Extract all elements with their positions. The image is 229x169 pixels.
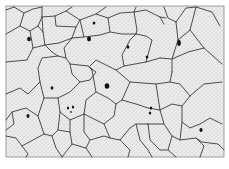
nucleus (87, 37, 91, 42)
nucleus (150, 107, 152, 110)
nucleus (149, 111, 151, 114)
nucleus (27, 37, 31, 42)
nucleus (127, 45, 130, 49)
nucleus (67, 107, 69, 110)
nucleus (146, 55, 149, 58)
nucleus (72, 106, 74, 109)
cell-tissue-illustration (0, 0, 229, 169)
nucleus (199, 128, 202, 132)
nucleus (177, 40, 181, 46)
nucleus (27, 114, 30, 118)
nucleus (93, 21, 96, 24)
tissue-drawing (0, 0, 229, 169)
nucleus (105, 83, 110, 89)
tissue-frame (6, 6, 224, 157)
nucleus (51, 86, 54, 89)
nucleus (70, 111, 72, 113)
